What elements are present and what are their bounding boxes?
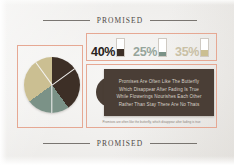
- header-rule-left: [43, 20, 90, 21]
- slide-edge-left: [0, 0, 7, 166]
- quote-line: Which Disappear After Fading Is True: [119, 87, 199, 93]
- stat-swatch-fill: [159, 52, 166, 56]
- quote-panel[interactable]: Promises Are Often Like The Butterfly Wh…: [86, 64, 217, 128]
- pie-chart[interactable]: [24, 57, 80, 113]
- stat-swatch-sage-green: [158, 38, 167, 57]
- statistics-panel[interactable]: 40% 25% 35%: [86, 33, 217, 61]
- pie-slice-divider: [51, 85, 52, 113]
- slide-canvas: PROMISED 40% 25% 35%: [0, 0, 234, 166]
- stat-value: 25%: [133, 46, 157, 58]
- quote-bubble[interactable]: Promises Are Often Like The Butterfly Wh…: [104, 69, 214, 116]
- slide-edge-bottom: [0, 156, 234, 166]
- quote-caption: Promises are often like the butterfly, w…: [92, 120, 211, 124]
- slide-edge-top: [0, 0, 234, 5]
- stat-swatch-fill: [201, 50, 208, 56]
- stat-value: 40%: [91, 46, 115, 58]
- pie-slice-divider: [35, 62, 53, 85]
- header-banner: PROMISED: [28, 15, 212, 26]
- stat-item[interactable]: 40%: [91, 38, 128, 58]
- stat-swatch-fill: [117, 49, 124, 56]
- stat-item[interactable]: 35%: [175, 38, 212, 58]
- stat-swatch-khaki: [200, 38, 209, 57]
- header-title: PROMISED: [97, 16, 143, 25]
- quote-line: Rather Than Stay There Are No Thats: [119, 102, 200, 108]
- header-rule-right: [150, 20, 197, 21]
- quote-line: Promises Are Often Like The Butterfly: [119, 79, 199, 85]
- footer-banner: PROMISED: [28, 138, 212, 149]
- stat-item[interactable]: 25%: [133, 38, 170, 58]
- pie-chart-panel[interactable]: [17, 45, 83, 128]
- footer-rule-left: [43, 143, 90, 144]
- stat-value: 35%: [175, 46, 199, 58]
- footer-rule-right: [150, 143, 197, 144]
- pie-slice-divider: [52, 68, 75, 86]
- quote-line: While Flowerings Nourishes Each Other: [116, 94, 201, 100]
- footer-title: PROMISED: [97, 139, 143, 148]
- stat-swatch-brown: [116, 38, 125, 57]
